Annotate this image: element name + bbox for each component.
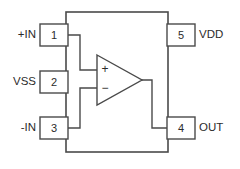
pin-label-plus-in: +IN [18,28,36,40]
pin-number-4: 4 [178,122,184,134]
schematic-canvas: + − 1 +IN 2 VSS 3 -IN 5 VDD 4 OUT [0,0,240,169]
op-amp-pinout-diagram: + − 1 +IN 2 VSS 3 -IN 5 VDD 4 OUT [0,0,240,169]
pin-number-3: 3 [51,122,57,134]
pin-label-out: OUT [199,121,223,133]
pin-label-vss: VSS [13,75,36,87]
inverting-input-marker: − [101,81,108,95]
pin-label-vdd: VDD [199,28,223,40]
pin-label-minus-in: -IN [21,121,36,133]
pin-number-1: 1 [51,29,57,41]
noninverting-input-marker: + [101,62,108,76]
pin-number-2: 2 [51,76,57,88]
pin-number-5: 5 [178,29,184,41]
